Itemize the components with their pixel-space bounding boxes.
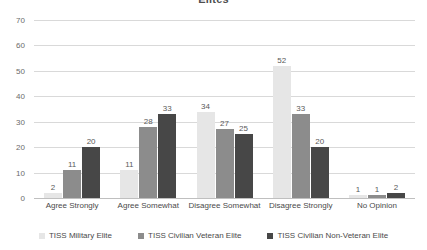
legend-item[interactable]: TISS Military Elite xyxy=(39,231,112,240)
bar[interactable] xyxy=(273,66,291,198)
y-axis-tick-label: 20 xyxy=(16,143,25,152)
x-axis-tick-label: No Opinion xyxy=(339,201,415,210)
bar-slot: 11 xyxy=(63,20,81,198)
y-axis-tick-label: 70 xyxy=(16,16,25,25)
bar-slot: 52 xyxy=(273,20,291,198)
bar[interactable] xyxy=(120,170,138,198)
x-axis-tick-label: Agree Somewhat xyxy=(110,201,186,210)
bar[interactable] xyxy=(368,195,386,198)
bar-value-label: 20 xyxy=(87,137,96,146)
bar-value-label: 2 xyxy=(394,183,398,192)
bar[interactable] xyxy=(158,114,176,198)
bar-chart: Elites 706050403020100 21120112833342725… xyxy=(0,0,427,250)
bar[interactable] xyxy=(292,114,310,198)
bar-value-label: 33 xyxy=(163,104,172,113)
legend-item[interactable]: TISS Civilian Non-Veteran Elite xyxy=(267,231,388,240)
bar-group: 21120 xyxy=(34,20,110,198)
bar-group-bars: 21120 xyxy=(34,20,110,198)
legend-swatch-icon xyxy=(267,233,273,239)
x-axis: Agree StronglyAgree SomewhatDisagree Som… xyxy=(34,201,415,210)
bar-value-label: 11 xyxy=(68,160,76,169)
bar-slot: 34 xyxy=(197,20,215,198)
bar-group: 112 xyxy=(339,20,415,198)
y-axis: 706050403020100 xyxy=(0,20,30,198)
bar-value-label: 1 xyxy=(375,185,379,194)
bar-slot: 27 xyxy=(216,20,234,198)
x-axis-tick-label: Disagree Somewhat xyxy=(186,201,262,210)
bar[interactable] xyxy=(63,170,81,198)
bar-slot: 28 xyxy=(139,20,157,198)
y-axis-tick-label: 30 xyxy=(16,117,25,126)
y-axis-tick-label: 0 xyxy=(21,194,25,203)
y-axis-tick-label: 60 xyxy=(16,41,25,50)
bar-slot: 33 xyxy=(158,20,176,198)
bar-value-label: 20 xyxy=(315,137,324,146)
legend-label: TISS Military Elite xyxy=(49,231,112,240)
x-axis-tick-label: Agree Strongly xyxy=(34,201,110,210)
bar-group-bars: 112 xyxy=(339,20,415,198)
bar[interactable] xyxy=(139,127,157,198)
bar[interactable] xyxy=(82,147,100,198)
bar-value-label: 2 xyxy=(51,183,55,192)
bar-slot: 2 xyxy=(387,20,405,198)
gridline xyxy=(34,198,415,199)
bar[interactable] xyxy=(349,195,367,198)
bar-slot: 1 xyxy=(349,20,367,198)
bar-slot: 33 xyxy=(292,20,310,198)
bar-value-label: 1 xyxy=(356,185,360,194)
bar-group: 523320 xyxy=(263,20,339,198)
bar[interactable] xyxy=(216,129,234,198)
legend-label: TISS Civilian Non-Veteran Elite xyxy=(277,231,388,240)
x-axis-tick-label: Disagree Strongly xyxy=(263,201,339,210)
bar-value-label: 27 xyxy=(220,119,229,128)
plot-area: 21120112833342725523320112 xyxy=(34,20,415,198)
bar-slot: 20 xyxy=(82,20,100,198)
bar-group: 342725 xyxy=(186,20,262,198)
bar[interactable] xyxy=(387,193,405,198)
y-axis-tick-label: 10 xyxy=(16,168,25,177)
bar[interactable] xyxy=(311,147,329,198)
bar-group-bars: 523320 xyxy=(263,20,339,198)
legend-swatch-icon xyxy=(39,233,45,239)
bar-groups: 21120112833342725523320112 xyxy=(34,20,415,198)
bar-slot: 11 xyxy=(120,20,138,198)
bar-value-label: 33 xyxy=(296,104,305,113)
bar-group-bars: 112833 xyxy=(110,20,186,198)
y-axis-tick-label: 50 xyxy=(16,66,25,75)
bar-value-label: 52 xyxy=(277,56,286,65)
bar-slot: 25 xyxy=(235,20,253,198)
bar-slot: 20 xyxy=(311,20,329,198)
chart-legend: TISS Military EliteTISS Civilian Veteran… xyxy=(0,231,427,240)
bar-slot: 2 xyxy=(44,20,62,198)
legend-label: TISS Civilian Veteran Elite xyxy=(148,231,241,240)
bar-group-bars: 342725 xyxy=(186,20,262,198)
bar[interactable] xyxy=(44,193,62,198)
legend-item[interactable]: TISS Civilian Veteran Elite xyxy=(138,231,241,240)
bar-group: 112833 xyxy=(110,20,186,198)
legend-swatch-icon xyxy=(138,233,144,239)
bar-slot: 1 xyxy=(368,20,386,198)
bar[interactable] xyxy=(235,134,253,198)
bar-value-label: 28 xyxy=(144,117,153,126)
bar[interactable] xyxy=(197,112,215,198)
bar-value-label: 34 xyxy=(201,102,210,111)
chart-title: Elites xyxy=(0,0,427,5)
bar-value-label: 11 xyxy=(125,160,133,169)
bar-value-label: 25 xyxy=(239,124,248,133)
y-axis-tick-label: 40 xyxy=(16,92,25,101)
